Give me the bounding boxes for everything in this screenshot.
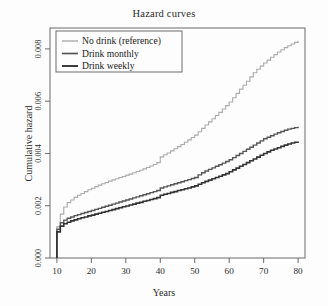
y-tick-label: 0.002 xyxy=(34,197,43,215)
x-tick-label: 70 xyxy=(259,266,269,276)
x-tick-label: 30 xyxy=(121,266,131,276)
x-tick-label: 40 xyxy=(156,266,166,276)
x-tick-label: 20 xyxy=(87,266,97,276)
x-tick-label: 10 xyxy=(52,266,62,276)
series-line xyxy=(57,41,298,258)
y-tick-label: 0.004 xyxy=(34,144,43,162)
plot-area: 10203040506070800.0000.0020.0040.0060.00… xyxy=(0,0,328,306)
series-line xyxy=(57,141,298,258)
legend-label: Drink weekly xyxy=(82,60,135,71)
legend-label: No drink (reference) xyxy=(82,35,161,47)
y-tick-label: 0.000 xyxy=(34,249,43,267)
x-tick-label: 80 xyxy=(294,266,304,276)
legend-label: Drink monthly xyxy=(82,48,139,59)
x-tick-label: 50 xyxy=(190,266,200,276)
hazard-curves-figure: Hazard curves Cumulative hazard Years 10… xyxy=(0,0,328,306)
x-tick-label: 60 xyxy=(225,266,235,276)
y-tick-label: 0.006 xyxy=(34,92,43,110)
y-tick-label: 0.008 xyxy=(34,40,43,58)
